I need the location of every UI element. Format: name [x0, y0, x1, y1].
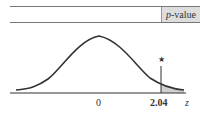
center-label: 0 [96, 97, 101, 108]
star-marker: ★ [158, 55, 165, 64]
critical-value-label: 2.04 [150, 97, 168, 108]
z-axis-label: z [185, 97, 189, 108]
